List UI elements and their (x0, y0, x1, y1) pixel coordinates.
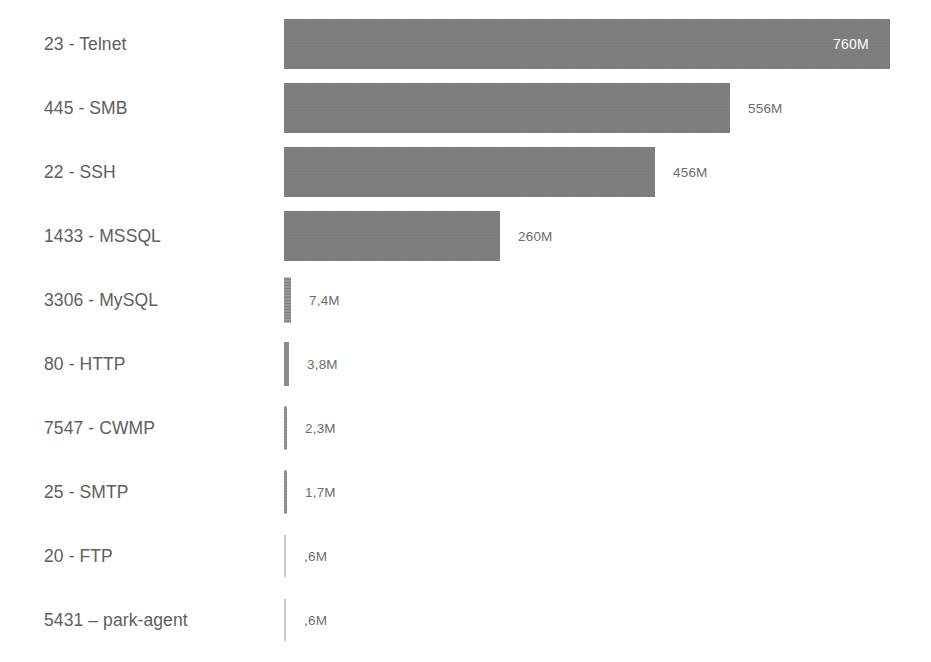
category-label: 22 - SSH (44, 142, 116, 202)
bar-row: 23 - Telnet760M (0, 14, 931, 74)
bar-track: ,6M (284, 526, 931, 586)
bar-value-label: 1,7M (305, 485, 336, 500)
bar-row: 445 - SMB556M (0, 78, 931, 138)
bar-row: 5431 – park-agent,6M (0, 590, 931, 650)
bar-value-label: 760M (833, 36, 869, 52)
bar-track: 1,7M (284, 462, 931, 522)
bar-value-label: 456M (673, 165, 708, 180)
bar-track: 7,4M (284, 270, 931, 330)
category-label: 80 - HTTP (44, 334, 126, 394)
category-label: 7547 - CWMP (44, 398, 155, 458)
category-label: 5431 – park-agent (44, 590, 188, 650)
bar-row: 80 - HTTP3,8M (0, 334, 931, 394)
bar-row: 25 - SMTP1,7M (0, 462, 931, 522)
bar (284, 147, 655, 197)
category-label: 23 - Telnet (44, 14, 127, 74)
bar-track: 456M (284, 142, 931, 202)
bar-value-label: 2,3M (305, 421, 336, 436)
bar-value-label: 3,8M (307, 357, 338, 372)
bar (284, 599, 286, 641)
bar (284, 19, 890, 69)
bar (284, 342, 289, 386)
bar-value-label: 556M (748, 101, 783, 116)
category-label: 25 - SMTP (44, 462, 129, 522)
bar-row: 7547 - CWMP2,3M (0, 398, 931, 458)
horizontal-bar-chart: 23 - Telnet760M445 - SMB556M22 - SSH456M… (0, 0, 931, 662)
bar-row: 20 - FTP,6M (0, 526, 931, 586)
bar (284, 211, 500, 261)
bar (284, 535, 286, 577)
bar-track: 760M (284, 14, 931, 74)
bar-track: 2,3M (284, 398, 931, 458)
bar-row: 22 - SSH456M (0, 142, 931, 202)
bar (284, 278, 291, 323)
bar (284, 471, 287, 514)
bar-value-label: ,6M (304, 613, 327, 628)
bar-row: 1433 - MSSQL260M (0, 206, 931, 266)
bar (284, 83, 730, 133)
bar-track: 3,8M (284, 334, 931, 394)
bar-track: ,6M (284, 590, 931, 650)
bar (284, 407, 287, 450)
bar-value-label: 260M (518, 229, 553, 244)
bar-track: 260M (284, 206, 931, 266)
bar-value-label: 7,4M (309, 293, 340, 308)
bar-row: 3306 - MySQL7,4M (0, 270, 931, 330)
category-label: 445 - SMB (44, 78, 128, 138)
bar-value-label: ,6M (304, 549, 327, 564)
category-label: 20 - FTP (44, 526, 113, 586)
bar-track: 556M (284, 78, 931, 138)
category-label: 1433 - MSSQL (44, 206, 161, 266)
category-label: 3306 - MySQL (44, 270, 158, 330)
